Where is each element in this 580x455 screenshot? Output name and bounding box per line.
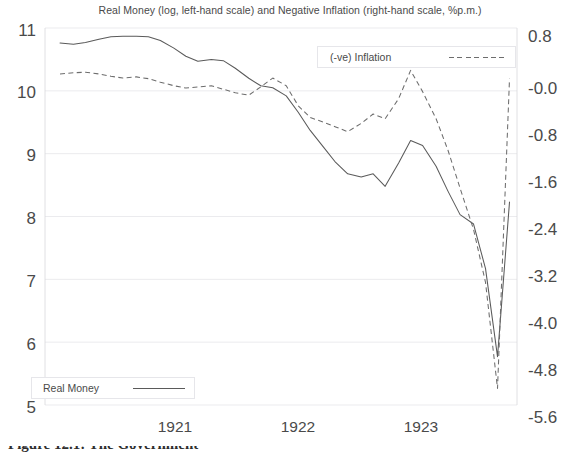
right-tick-5: -3.2 <box>528 268 557 285</box>
legend-real-money: Real Money <box>31 377 195 399</box>
dashed-line-sample <box>449 57 505 58</box>
figure-caption: Figure 12.1: The Government <box>0 446 580 455</box>
series-real-money <box>60 36 510 356</box>
gridlines <box>45 28 517 405</box>
chart-title: Real Money (log, left-hand scale) and Ne… <box>0 4 580 16</box>
x-tick-1921: 1921 <box>145 419 205 435</box>
right-tick-3: -1.6 <box>528 174 557 191</box>
left-tick-0: 11 <box>18 22 36 39</box>
figure-caption-text: Figure 12.1: The Government <box>8 446 198 453</box>
right-tick-0: 0.8 <box>528 28 552 45</box>
legend-inflation-label: (-ve) Inflation <box>330 52 391 63</box>
left-tick-1: 10 <box>17 84 36 101</box>
x-tick-1922: 1922 <box>268 419 328 435</box>
right-tick-1: -0.0 <box>528 80 557 97</box>
plot-area <box>45 28 517 405</box>
solid-line-sample <box>133 388 185 389</box>
chart-container: Real Money (log, left-hand scale) and Ne… <box>0 0 580 455</box>
left-tick-4: 7 <box>27 273 36 290</box>
x-tick-1923: 1923 <box>391 419 451 435</box>
left-tick-6: 5 <box>27 399 36 416</box>
right-tick-7: -4.8 <box>528 362 557 379</box>
left-tick-3: 8 <box>27 210 36 227</box>
legend-money-label: Real Money <box>43 383 99 394</box>
left-tick-2: 9 <box>27 147 36 164</box>
series-negative-inflation <box>60 70 510 388</box>
right-tick-4: -2.4 <box>528 221 557 238</box>
right-tick-2: -0.8 <box>528 127 557 144</box>
left-tick-5: 6 <box>27 336 36 353</box>
right-tick-6: -4.0 <box>528 315 557 332</box>
right-tick-8: -5.6 <box>528 409 557 426</box>
legend-inflation: (-ve) Inflation <box>317 46 516 68</box>
